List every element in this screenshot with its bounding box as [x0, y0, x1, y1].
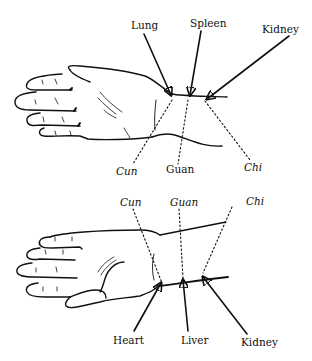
label-cun-bottom: Cun — [120, 197, 142, 208]
bottom-position-guides — [133, 207, 232, 283]
label-guan-bottom: Guan — [170, 197, 198, 208]
label-guan-top: Guan — [166, 164, 194, 175]
top-organ-pointers — [144, 31, 289, 99]
label-chi-bottom: Chi — [246, 196, 264, 207]
label-lung: Lung — [131, 20, 158, 31]
top-position-guides — [133, 100, 250, 164]
label-cun-top: Cun — [116, 166, 138, 177]
label-kidney-bottom: Kidney — [241, 337, 278, 348]
bottom-hand-drawing — [17, 222, 228, 308]
label-heart: Heart — [113, 335, 144, 346]
top-hand-drawing — [15, 66, 227, 146]
bottom-organ-pointers — [134, 277, 247, 334]
label-kidney-top: Kidney — [262, 24, 299, 35]
label-spleen: Spleen — [190, 18, 226, 29]
label-chi-top: Chi — [244, 162, 262, 173]
label-liver: Liver — [181, 335, 209, 346]
